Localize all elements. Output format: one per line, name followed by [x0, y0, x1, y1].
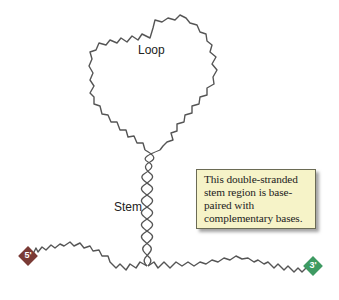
stem-callout-box: This double-stranded stem region is base…: [196, 169, 316, 229]
five-prime-tail: [33, 242, 147, 270]
three-prime-tail: [148, 256, 310, 272]
loop-strand: [89, 15, 217, 150]
five-prime-label: 5': [20, 250, 36, 260]
stem-helix: [141, 150, 160, 266]
rna-hairpin-diagram: [0, 0, 339, 300]
loop-label: Loop: [138, 43, 165, 57]
callout-text: This double-stranded stem region is base…: [204, 173, 302, 224]
stem-label: Stem: [114, 200, 142, 214]
three-prime-label: 3': [305, 260, 321, 270]
